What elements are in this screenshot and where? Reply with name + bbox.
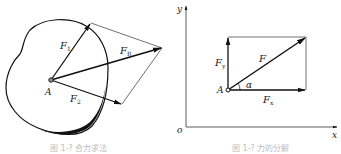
left-figure: A F1 FR F2 图 1-? 合力求法 [6, 20, 162, 153]
label-fx: Fx [262, 94, 274, 106]
x-axis-label: x [332, 130, 337, 140]
vector-f1 [51, 24, 90, 80]
vector-f2 [51, 80, 121, 104]
label-fy: Fy [214, 57, 226, 70]
label-f: F [258, 53, 267, 64]
label-f2: F2 [69, 93, 81, 105]
rigid-body [6, 20, 108, 135]
left-caption: 图 1-? 合力求法 [50, 143, 107, 153]
diagram-canvas: A F1 FR F2 图 1-? 合力求法 y x o A α F Fy Fx … [0, 0, 341, 154]
origin-label: o [177, 125, 183, 135]
y-axis-label: y [176, 4, 183, 14]
right-figure: y x o A α F Fy Fx 图 1-? 力的分解 [176, 4, 337, 153]
angle-alpha-arc [238, 83, 240, 90]
point-a-marker [226, 88, 230, 92]
label-f1: F1 [59, 40, 71, 52]
point-a-marker [49, 78, 54, 83]
vector-f [228, 38, 305, 90]
angle-alpha-label: α [246, 80, 252, 90]
right-caption: 图 1-? 力的分解 [232, 143, 289, 153]
point-a-label: A [44, 87, 52, 97]
label-fr: FR [119, 45, 132, 57]
point-a-label: A [216, 85, 224, 95]
